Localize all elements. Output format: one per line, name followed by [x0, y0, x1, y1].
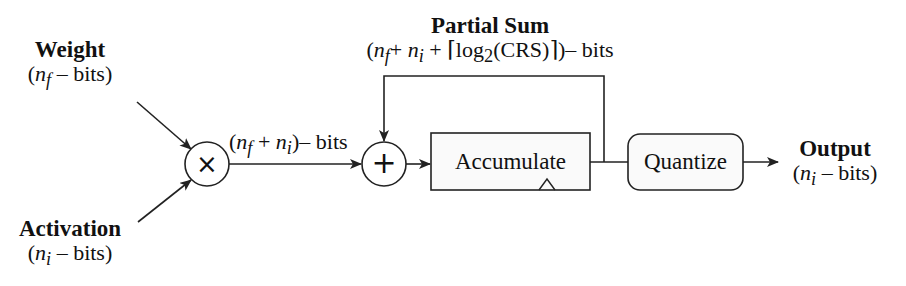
output-label: Output (ni – bits)	[775, 137, 895, 190]
activation-title: Activation	[0, 217, 140, 241]
output-bits: (ni – bits)	[775, 161, 895, 190]
weight-bits: (nf – bits)	[0, 62, 140, 91]
add-icon: +	[362, 140, 406, 184]
partial-sum-title: Partial Sum	[320, 14, 660, 38]
activation-arrow	[138, 180, 191, 222]
partial-sum-label: Partial Sum (nf+ ni + ⌈log2(CRS)⌉)– bits	[320, 14, 660, 67]
product-bits-label: (nf + ni)– bits	[229, 130, 348, 159]
weight-arrow	[137, 102, 191, 149]
activation-label: Activation (ni – bits)	[0, 217, 140, 270]
multiply-icon: ×	[185, 142, 229, 186]
quantize-label: Quantize	[628, 134, 743, 190]
weight-title: Weight	[0, 38, 140, 62]
weight-label: Weight (nf – bits)	[0, 38, 140, 91]
accumulate-label: Accumulate	[431, 133, 590, 190]
partial-sum-bits: (nf+ ni + ⌈log2(CRS)⌉)– bits	[320, 38, 660, 67]
activation-bits: (ni – bits)	[0, 241, 140, 270]
output-title: Output	[775, 137, 895, 161]
